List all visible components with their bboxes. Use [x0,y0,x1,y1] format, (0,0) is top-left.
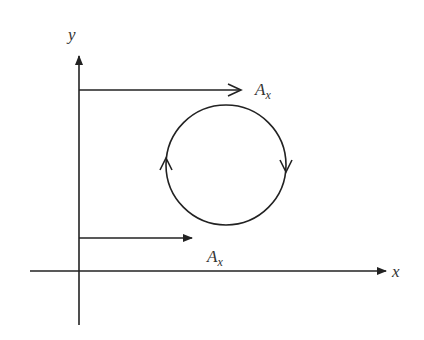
lower-vector-label: Ax [206,247,223,269]
upper-vector-label: Ax [254,80,271,102]
x-axis-label: x [391,262,400,281]
y-axis-label: y [66,25,76,44]
circulation-loop [160,105,292,225]
upper-vector-ax: Ax [79,80,271,102]
y-axis: y [66,25,79,325]
diagram-canvas: y x Ax Ax [0,0,424,340]
lower-vector-ax: Ax [79,238,223,269]
